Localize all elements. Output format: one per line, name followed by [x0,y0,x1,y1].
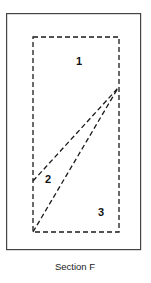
region-label-3: 3 [98,206,104,218]
figure-container: 1 2 3 Section F [0,0,151,283]
figure-caption: Section F [55,261,95,272]
region-label-2: 2 [45,173,51,185]
region-label-1: 1 [76,55,82,67]
section-diagram: 1 2 3 Section F [0,0,151,283]
outer-frame [7,14,141,250]
